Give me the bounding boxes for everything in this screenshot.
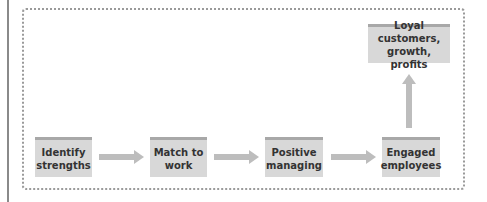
node-loyal-customers: Loyal customers,growth, profits (368, 24, 450, 63)
arrow-right-icon (214, 152, 259, 162)
arrow-right-icon (331, 152, 376, 162)
node-label: Identify (36, 146, 91, 159)
node-label: Positive (266, 146, 322, 159)
node-label: strengths (36, 159, 91, 172)
arrow-up-icon (402, 74, 416, 128)
node-label: Match to (154, 146, 204, 159)
node-label: managing (266, 159, 322, 172)
arrow-right-icon (99, 152, 144, 162)
node-label: Engaged (381, 146, 442, 159)
left-border-line (7, 0, 9, 202)
node-engaged-employees: Engagedemployees (382, 137, 440, 177)
node-label: work (154, 159, 204, 172)
node-identify-strengths: Identifystrengths (35, 137, 92, 177)
node-label: growth, profits (368, 45, 450, 71)
node-label: Loyal customers, (368, 19, 450, 45)
node-match-to-work: Match towork (150, 137, 207, 177)
node-positive-managing: Positivemanaging (265, 137, 323, 177)
node-label: employees (381, 159, 442, 172)
